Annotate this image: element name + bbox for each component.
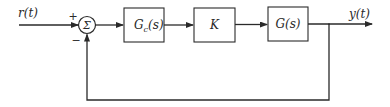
- output-label: y(t): [348, 7, 370, 21]
- block-diagram: r(t) Σ + − Gc(s) K G(s) y(t): [0, 0, 390, 107]
- summing-junction: Σ + −: [68, 10, 95, 47]
- controller-label: Gc(s): [134, 18, 164, 34]
- plant-label: G(s): [275, 17, 300, 31]
- plus-sign: +: [68, 10, 77, 23]
- input-label: r(t): [18, 6, 38, 20]
- gain-block: K: [194, 8, 235, 42]
- plant-block: G(s): [268, 7, 308, 41]
- sigma-icon: Σ: [82, 19, 91, 32]
- gain-label: K: [209, 18, 220, 32]
- minus-sign: −: [71, 34, 80, 47]
- takeoff-point: [328, 23, 330, 25]
- controller-block: Gc(s): [124, 8, 164, 42]
